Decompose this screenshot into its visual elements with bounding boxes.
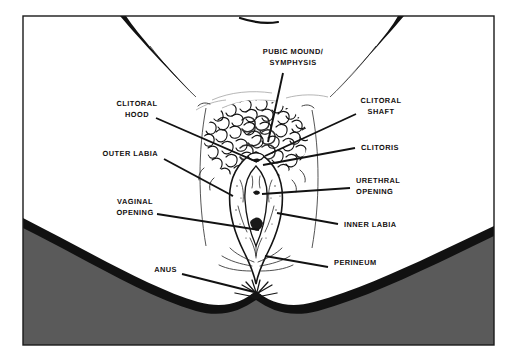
label-pubic-mound-symphysis: PUBIC MOUND/SYMPHYSIS (263, 47, 323, 67)
label-line: CLITORAL (361, 96, 402, 105)
illustration-area: PUBIC MOUND/SYMPHYSISCLITORALHOODOUTER L… (23, 16, 494, 345)
label-line: SYMPHYSIS (269, 58, 316, 67)
label-line: CLITORAL (117, 99, 158, 108)
label-line: PUBIC MOUND/ (263, 47, 323, 56)
anatomy-diagram: PUBIC MOUND/SYMPHYSISCLITORALHOODOUTER L… (0, 0, 517, 362)
label-line: HOOD (125, 110, 149, 119)
label-clitoris: CLITORIS (361, 143, 399, 152)
label-line: CLITORIS (361, 143, 399, 152)
label-line: OPENING (116, 208, 153, 217)
label-line: SHAFT (368, 107, 395, 116)
diagram-page: PUBIC MOUND/SYMPHYSISCLITORALHOODOUTER L… (0, 0, 517, 362)
label-line: URETHRAL (356, 176, 400, 185)
label-line: ANUS (154, 265, 177, 274)
label-line: INNER LABIA (344, 220, 397, 229)
label-inner-labia: INNER LABIA (344, 220, 397, 229)
label-line: OUTER LABIA (103, 149, 159, 158)
label-vaginal-opening: VAGINALOPENING (116, 197, 153, 217)
label-perineum: PERINEUM (334, 258, 377, 267)
label-outer-labia: OUTER LABIA (103, 149, 159, 158)
label-line: PERINEUM (334, 258, 377, 267)
label-line: VAGINAL (117, 197, 153, 206)
label-line: OPENING (356, 187, 393, 196)
label-anus: ANUS (154, 265, 177, 274)
